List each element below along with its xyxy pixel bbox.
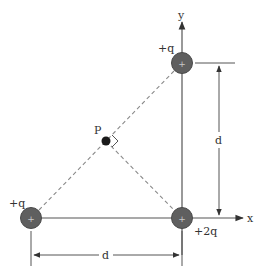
charge-diagram: y x P d d + +q + +2q	[0, 0, 259, 278]
plus-sign-icon: +	[27, 214, 35, 224]
charge-top: + +q	[158, 42, 193, 74]
y-axis-label: y	[177, 9, 185, 22]
right-angle-marker	[112, 135, 118, 147]
horizontal-dimension: d	[31, 231, 182, 266]
charge-left-label: +q	[9, 197, 25, 210]
charge-left: + +q	[9, 197, 42, 229]
point-p: P	[94, 124, 111, 146]
x-axis-label: x	[247, 212, 254, 225]
point-p-label: P	[94, 124, 102, 137]
horizontal-dimension-label: d	[102, 249, 109, 262]
charge-origin-label: +2q	[194, 225, 217, 238]
x-axis: x	[31, 212, 254, 225]
vertical-dimension: d	[195, 63, 235, 215]
charge-origin: + +2q	[172, 208, 218, 239]
vertical-dimension-label: d	[215, 134, 222, 147]
plus-sign-icon: +	[178, 59, 186, 69]
charge-top-label: +q	[158, 42, 174, 55]
plus-sign-icon: +	[178, 214, 186, 224]
